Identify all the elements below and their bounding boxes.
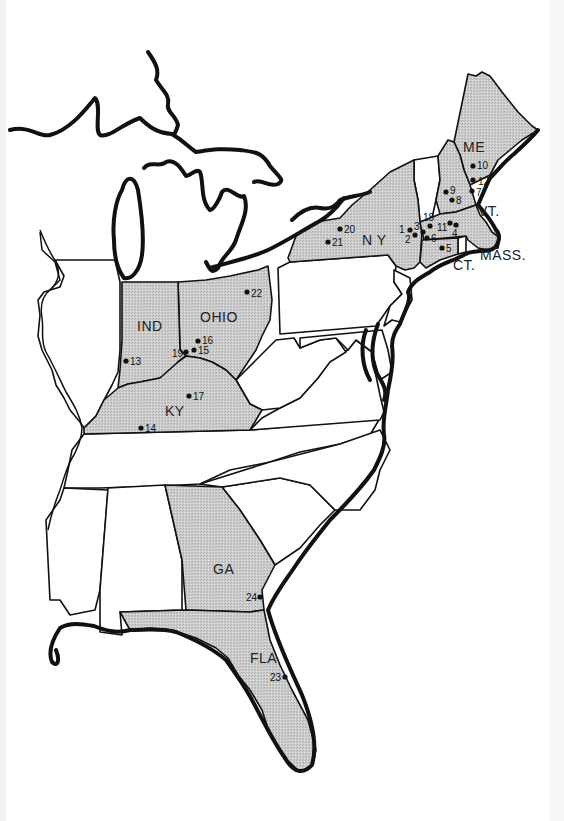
point-marker-icon bbox=[325, 239, 330, 244]
svg-text:12: 12 bbox=[478, 176, 490, 187]
svg-text:4: 4 bbox=[452, 228, 458, 239]
point-marker-icon bbox=[447, 220, 452, 225]
florida-state bbox=[120, 610, 316, 772]
point-marker-icon bbox=[449, 197, 454, 202]
svg-text:16: 16 bbox=[202, 335, 214, 346]
point-marker-icon bbox=[470, 177, 475, 182]
state-label-me: ME bbox=[463, 139, 485, 155]
svg-text:6: 6 bbox=[431, 233, 437, 244]
lake-michigan bbox=[113, 179, 142, 279]
state-label-fla: FLA bbox=[250, 650, 277, 666]
point-marker-icon bbox=[183, 349, 188, 354]
svg-text:17: 17 bbox=[193, 391, 205, 402]
state-label-ny: N Y bbox=[362, 232, 387, 248]
point-marker-icon bbox=[244, 289, 249, 294]
svg-text:3: 3 bbox=[414, 221, 420, 232]
maine-state bbox=[454, 72, 538, 185]
state-label-mass: MASS. bbox=[480, 247, 526, 263]
point-marker-icon bbox=[191, 347, 196, 352]
svg-text:18: 18 bbox=[423, 212, 435, 223]
point-marker-icon bbox=[123, 358, 128, 363]
point-marker-icon bbox=[138, 425, 143, 430]
new-york-state bbox=[288, 160, 422, 270]
point-marker-icon bbox=[424, 235, 429, 240]
lake-superior-shore bbox=[10, 98, 281, 185]
svg-text:7: 7 bbox=[476, 187, 482, 198]
point-marker-icon bbox=[186, 393, 191, 398]
svg-text:23: 23 bbox=[270, 672, 282, 683]
point-marker-icon bbox=[443, 189, 448, 194]
point-marker-icon bbox=[427, 223, 432, 228]
northern-river-boundary bbox=[148, 52, 178, 135]
svg-text:2: 2 bbox=[405, 234, 411, 245]
point-marker-icon bbox=[282, 674, 287, 679]
state-label-ct: CT. bbox=[453, 257, 476, 273]
state-label-ky: KY bbox=[165, 403, 185, 419]
state-label-ohio: OHIO bbox=[200, 309, 238, 325]
state-label-ga: GA bbox=[213, 561, 234, 577]
svg-text:13: 13 bbox=[130, 356, 142, 367]
svg-text:22: 22 bbox=[251, 288, 263, 299]
point-marker-icon bbox=[420, 229, 425, 234]
svg-text:10: 10 bbox=[477, 160, 489, 171]
map-point-12: 12 bbox=[470, 176, 489, 187]
svg-text:24: 24 bbox=[246, 592, 258, 603]
svg-text:8: 8 bbox=[456, 195, 462, 206]
point-marker-icon bbox=[453, 222, 458, 227]
state-label-vt: VT. bbox=[478, 203, 500, 219]
pennsylvania-state bbox=[278, 255, 402, 334]
state-label-ind: IND bbox=[137, 318, 163, 334]
svg-text:15: 15 bbox=[198, 345, 210, 356]
point-marker-icon bbox=[412, 232, 417, 237]
svg-text:20: 20 bbox=[344, 224, 356, 235]
point-marker-icon bbox=[470, 163, 475, 168]
point-marker-icon bbox=[469, 188, 474, 193]
point-marker-icon bbox=[195, 338, 200, 343]
point-marker-icon bbox=[257, 594, 262, 599]
svg-text:5: 5 bbox=[446, 243, 452, 254]
point-marker-icon bbox=[407, 227, 412, 232]
eastern-us-map: ME VT. N Y MASS. CT. IND OHIO KY GA FLA … bbox=[0, 0, 564, 821]
svg-text:11: 11 bbox=[437, 222, 448, 233]
michigan-peninsula-shore bbox=[144, 161, 246, 271]
svg-text:9: 9 bbox=[450, 185, 456, 196]
mississippi-state bbox=[46, 488, 108, 615]
svg-text:14: 14 bbox=[145, 423, 157, 434]
point-marker-icon bbox=[337, 226, 342, 231]
rhode-island-state bbox=[458, 236, 466, 254]
point-marker-icon bbox=[439, 245, 444, 250]
svg-text:21: 21 bbox=[332, 237, 344, 248]
svg-text:19: 19 bbox=[172, 348, 184, 359]
